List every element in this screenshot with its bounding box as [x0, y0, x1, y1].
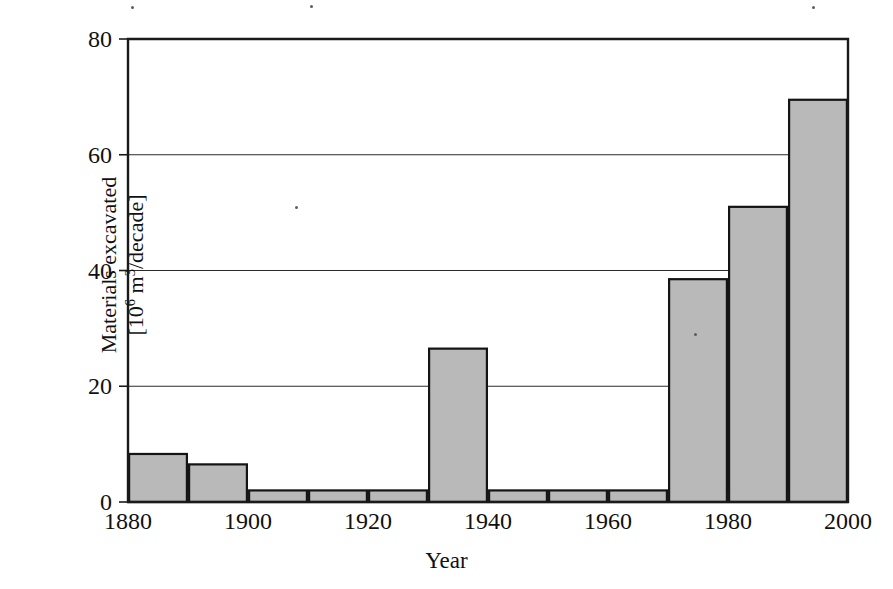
bar-1960: [609, 490, 667, 502]
figure-container: 1880190019201940196019802000 020406080 M…: [0, 0, 893, 589]
bar-1980: [729, 207, 787, 502]
bar-1880: [129, 454, 187, 502]
x-tick-label-1920: 1920: [344, 508, 392, 534]
y-axis-title-line2: [106 m3/decade]: [123, 177, 150, 354]
y-tick-label-80: 80: [88, 26, 112, 52]
bar-1950: [549, 490, 607, 502]
bar-1940: [489, 490, 547, 502]
x-tick-label-1960: 1960: [584, 508, 632, 534]
scan-speck-b: [310, 5, 313, 8]
y-axis-unit-prefix: [10: [123, 306, 148, 335]
bar-1900: [249, 490, 307, 502]
bar-1920: [369, 490, 427, 502]
y-axis-unit-sup2: 3: [122, 269, 138, 276]
y-axis-title: Materials excavated [106 m3/decade]: [8, 150, 238, 380]
y-axis-unit-suffix: /decade]: [123, 195, 148, 270]
bar-1910: [309, 490, 367, 502]
bar-1890: [189, 464, 247, 502]
x-tick-labels: 1880190019201940196019802000: [104, 508, 872, 534]
x-tick-label-1940: 1940: [464, 508, 512, 534]
bar-1990: [789, 100, 847, 502]
y-axis-unit-mid: m: [123, 276, 148, 299]
scan-speck-c: [812, 6, 815, 9]
bar-1930: [429, 349, 487, 502]
scan-speck-e: [694, 333, 697, 336]
y-tick-label-0: 0: [100, 489, 112, 515]
scan-speck-a: [131, 6, 134, 9]
y-axis-unit-sup1: 6: [122, 299, 138, 306]
x-tick-label-2000: 2000: [824, 508, 872, 534]
scan-speck-d: [295, 206, 298, 209]
x-tick-label-1900: 1900: [224, 508, 272, 534]
bar-1970: [669, 279, 727, 502]
x-tick-label-1980: 1980: [704, 508, 752, 534]
x-axis-title-wrap: Year: [0, 548, 893, 574]
x-axis-title: Year: [425, 548, 467, 573]
y-axis-title-line1: Materials excavated: [96, 177, 123, 354]
